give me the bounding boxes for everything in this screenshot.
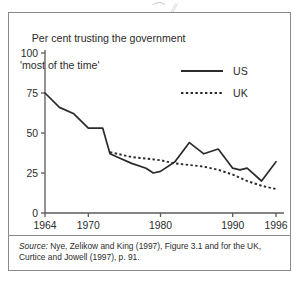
- figure-container: Per cent trusting the government 'most o…: [8, 12, 291, 271]
- svg-text:1980: 1980: [149, 220, 172, 231]
- svg-text:1970: 1970: [77, 220, 100, 231]
- svg-text:100: 100: [21, 48, 39, 59]
- chart-axes: [45, 50, 284, 213]
- source-note: Source: Nye, Zelikow and King (1997), Fi…: [19, 241, 285, 264]
- svg-text:50: 50: [26, 128, 38, 139]
- legend-label-us: US: [233, 65, 248, 77]
- y-axis-tick-labels: 0255075100: [21, 48, 39, 219]
- source-citation: Nye, Zelikow and King (1997), Figure 3.1…: [19, 241, 261, 262]
- plot-area: 0255075100 19641970198019901996 USUK: [9, 13, 292, 233]
- svg-text:1996: 1996: [264, 220, 287, 231]
- svg-text:1964: 1964: [33, 220, 56, 231]
- series-line-us: [45, 93, 276, 181]
- svg-text:1990: 1990: [221, 220, 244, 231]
- source-divider: [9, 235, 290, 236]
- chart-legend: USUK: [181, 65, 248, 99]
- x-axis-tick-labels: 19641970198019901996: [33, 220, 287, 231]
- svg-text:75: 75: [26, 88, 38, 99]
- chart-series-lines: [45, 93, 276, 189]
- source-label: Source:: [19, 241, 48, 251]
- legend-label-uk: UK: [233, 87, 248, 99]
- chart-tick-marks: [41, 53, 276, 217]
- svg-text:0: 0: [32, 208, 38, 219]
- line-chart-svg: 0255075100 19641970198019901996 USUK: [9, 13, 292, 233]
- svg-text:25: 25: [26, 168, 38, 179]
